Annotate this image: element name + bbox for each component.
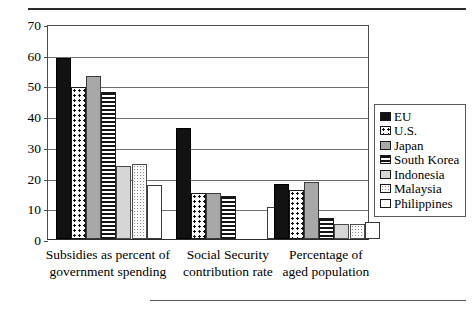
bar [176,128,191,239]
bar [221,196,236,239]
x-axis-category-label: Percentage of aged population [233,246,419,281]
bar [56,58,71,239]
legend-swatch-icon [380,199,391,208]
legend-item: Philippines [380,196,460,211]
legend-item: EU [380,109,460,124]
legend-swatch-icon [380,112,391,121]
legend-swatch-icon [380,184,391,193]
legend-item: Malaysia [380,182,460,197]
legend-item: Indonesia [380,167,460,182]
bar [147,185,162,239]
top-rule [28,8,466,10]
bar-series-container [48,26,368,239]
bar [304,182,319,239]
bottom-rule [150,300,466,301]
legend-swatch-icon [380,126,391,135]
plot-area: 010203040506070 [47,25,369,240]
chart-legend: EUU.S.JapanSouth KoreaIndonesiaMalaysiaP… [374,104,466,217]
legend-label: EU [394,110,411,123]
bar [116,166,131,239]
bar [274,184,289,239]
bar [350,224,365,239]
legend-item: Japan [380,138,460,153]
y-tick-mark [44,241,48,242]
legend-item: U.S. [380,124,460,139]
chart-figure: 010203040506070 Subsidies as percent of … [0,0,476,311]
bar [132,164,147,239]
legend-label: Malaysia [394,182,442,195]
bar [191,193,206,239]
bar [101,92,116,239]
legend-item: South Korea [380,153,460,168]
legend-swatch-icon [380,170,391,179]
legend-label: Indonesia [394,168,445,181]
bar [319,218,334,240]
bar [71,87,86,239]
bar-group [56,26,162,239]
legend-label: U.S. [394,124,417,137]
y-tick-label: 20 [28,173,42,187]
bar-group [274,26,380,239]
y-tick-label: 40 [28,111,42,125]
y-tick-label: 50 [28,81,42,95]
bar [86,76,101,239]
y-tick-label: 60 [28,50,42,64]
bar [206,193,221,239]
y-tick-label: 70 [28,19,42,33]
y-tick-label: 10 [28,204,42,218]
legend-label: South Korea [394,153,459,166]
y-tick-label: 30 [28,142,42,156]
legend-label: Japan [394,139,424,152]
legend-label: Philippines [394,197,453,210]
bar [365,222,380,239]
legend-swatch-icon [380,141,391,150]
bar [334,224,349,239]
bar-group [176,26,282,239]
legend-swatch-icon [380,155,391,164]
bar [289,190,304,239]
